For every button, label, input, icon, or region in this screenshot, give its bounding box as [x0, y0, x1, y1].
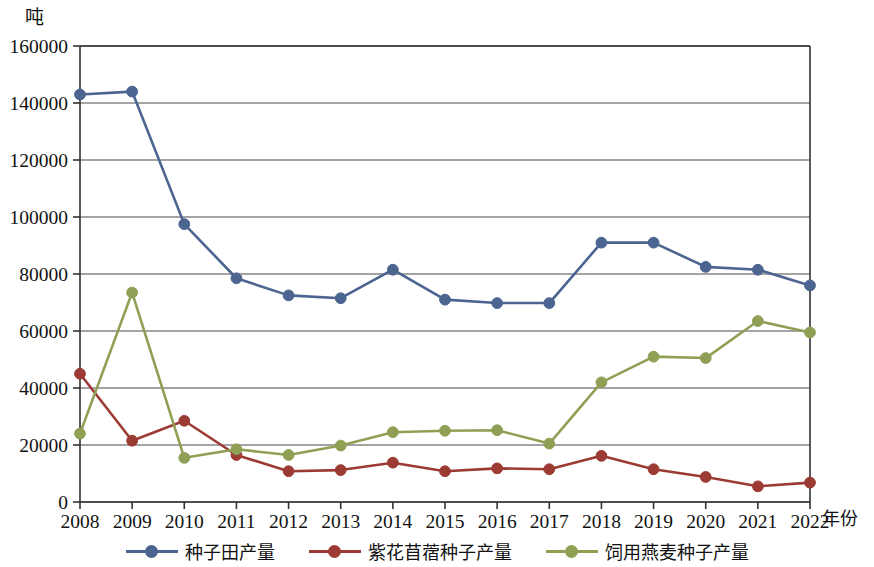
- data-point: [127, 435, 138, 446]
- legend-dot-icon: [565, 545, 578, 558]
- legend-marker-icon: [546, 544, 598, 558]
- x-axis-tick-label: 2014: [373, 511, 412, 532]
- legend-dot-icon: [328, 545, 341, 558]
- data-point: [544, 298, 555, 309]
- legend-label: 种子田产量: [185, 538, 275, 564]
- data-point: [179, 452, 190, 463]
- data-point: [387, 457, 398, 468]
- chart-legend: 种子田产量紫花苜蓿种子产量饲用燕麦种子产量: [0, 536, 874, 566]
- x-axis-tick-label: 2013: [321, 511, 360, 532]
- legend-marker-icon: [126, 544, 178, 558]
- y-axis-tick-label: 40000: [19, 378, 68, 399]
- data-point: [127, 86, 138, 97]
- data-point: [544, 438, 555, 449]
- legend-dot-icon: [145, 545, 158, 558]
- x-axis-tick-label: 2018: [582, 511, 621, 532]
- y-axis-tick-label: 120000: [10, 150, 69, 171]
- data-point: [700, 472, 711, 483]
- data-point: [127, 287, 138, 298]
- data-point: [387, 264, 398, 275]
- data-point: [335, 465, 346, 476]
- legend-item[interactable]: 种子田产量: [126, 538, 275, 564]
- legend-label: 紫花苜蓿种子产量: [368, 538, 512, 564]
- y-axis-tick-label: 160000: [10, 36, 69, 57]
- y-axis-tick-label: 60000: [19, 321, 68, 342]
- data-point: [805, 327, 816, 338]
- data-point: [75, 89, 86, 100]
- x-axis-tick-label: 2012: [269, 511, 308, 532]
- data-point: [231, 444, 242, 455]
- x-axis-tick-label: 2015: [426, 511, 465, 532]
- line-chart-plot: 0200004000060000800001000001200001400001…: [0, 0, 874, 567]
- data-point: [231, 273, 242, 284]
- x-axis-tick-label: 2009: [113, 511, 152, 532]
- legend-label: 饲用燕麦种子产量: [605, 538, 749, 564]
- data-point: [752, 481, 763, 492]
- data-point: [179, 219, 190, 230]
- x-axis-tick-label: 2019: [634, 511, 673, 532]
- data-point: [335, 440, 346, 451]
- x-axis-tick-label: 2017: [530, 511, 569, 532]
- data-point: [544, 464, 555, 475]
- data-point: [492, 463, 503, 474]
- legend-item[interactable]: 紫花苜蓿种子产量: [309, 538, 512, 564]
- data-point: [752, 264, 763, 275]
- x-axis-tick-label: 2021: [738, 511, 777, 532]
- y-axis-tick-label: 80000: [19, 264, 68, 285]
- y-axis-tick-label: 0: [58, 492, 68, 513]
- data-point: [805, 280, 816, 291]
- data-point: [440, 466, 451, 477]
- data-point: [335, 293, 346, 304]
- data-point: [700, 353, 711, 364]
- data-point: [805, 477, 816, 488]
- x-axis-tick-label: 2020: [686, 511, 725, 532]
- data-point: [596, 237, 607, 248]
- y-axis-tick-label: 20000: [19, 435, 68, 456]
- data-point: [75, 368, 86, 379]
- data-point: [648, 351, 659, 362]
- legend-item[interactable]: 饲用燕麦种子产量: [546, 538, 749, 564]
- data-point: [440, 425, 451, 436]
- data-point: [492, 298, 503, 309]
- legend-marker-icon: [309, 544, 361, 558]
- x-axis-tick-label: 2010: [165, 511, 204, 532]
- data-point: [596, 377, 607, 388]
- data-point: [492, 425, 503, 436]
- data-point: [387, 427, 398, 438]
- data-point: [179, 415, 190, 426]
- y-axis-tick-label: 140000: [10, 93, 69, 114]
- x-axis-tick-label: 2008: [61, 511, 100, 532]
- x-axis-tick-label: 2011: [217, 511, 255, 532]
- x-axis-tick-label: 2016: [478, 511, 517, 532]
- series-line: [80, 92, 810, 303]
- data-point: [75, 428, 86, 439]
- data-point: [596, 450, 607, 461]
- data-point: [648, 237, 659, 248]
- y-axis-tick-label: 100000: [10, 207, 69, 228]
- data-point: [700, 261, 711, 272]
- data-point: [752, 316, 763, 327]
- chart-container: 吨 02000040000600008000010000012000014000…: [0, 0, 874, 567]
- data-point: [283, 450, 294, 461]
- data-point: [648, 464, 659, 475]
- data-point: [283, 290, 294, 301]
- x-axis-title: 年份: [822, 504, 858, 530]
- data-point: [283, 466, 294, 477]
- data-point: [440, 294, 451, 305]
